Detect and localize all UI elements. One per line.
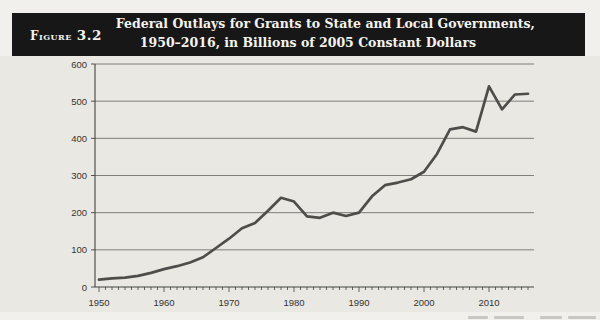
x-axis-label-1970: 1970 <box>218 297 239 308</box>
figure-page: Figure3.2 Federal Outlays for Grants to … <box>0 0 600 320</box>
y-axis-label-200: 200 <box>71 207 87 218</box>
figure-label: Figure3.2 <box>30 25 102 44</box>
caption-smudge <box>568 316 596 319</box>
chart-svg: 0100200300400500600195019601970198019902… <box>0 56 600 312</box>
x-axis-label-1990: 1990 <box>348 297 369 308</box>
y-axis-label-300: 300 <box>71 170 87 181</box>
clipped-caption-remnant <box>0 312 600 320</box>
x-axis-label-1960: 1960 <box>153 297 174 308</box>
x-axis-label-1980: 1980 <box>283 297 304 308</box>
figure-title: Federal Outlays for Grants to State and … <box>116 15 571 53</box>
figure-title-line1: Federal Outlays for Grants to State and … <box>116 15 571 34</box>
figure-label-word: Figure <box>30 29 72 43</box>
caption-smudge <box>540 316 562 319</box>
caption-smudge <box>468 316 488 319</box>
figure-title-line2: 1950–2016, in Billions of 2005 Constant … <box>116 34 571 53</box>
y-axis-label-0: 0 <box>82 282 87 293</box>
y-axis-label-600: 600 <box>71 59 87 70</box>
y-axis-label-500: 500 <box>71 96 87 107</box>
y-axis-label-100: 100 <box>71 244 87 255</box>
x-axis-label-1950: 1950 <box>88 297 109 308</box>
data-line-grants-outlays <box>99 86 528 279</box>
chart-panel: 0100200300400500600195019601970198019902… <box>0 56 600 312</box>
figure-title-bar: Figure3.2 Federal Outlays for Grants to … <box>12 13 585 56</box>
figure-label-number: 3.2 <box>77 27 102 43</box>
x-axis-label-2000: 2000 <box>413 297 434 308</box>
y-axis-label-400: 400 <box>71 133 87 144</box>
caption-smudge <box>494 316 524 319</box>
x-axis-label-2010: 2010 <box>478 297 499 308</box>
